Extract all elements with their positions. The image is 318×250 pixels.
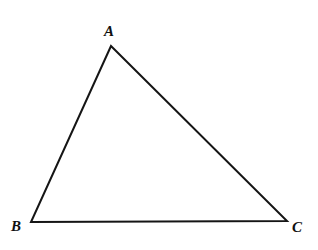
figure-background [0, 0, 318, 250]
triangle-diagram [0, 0, 318, 250]
vertex-label-b: B [11, 219, 21, 234]
geometry-figure: A B C [0, 0, 318, 250]
vertex-label-c: C [292, 220, 302, 235]
vertex-label-a: A [104, 24, 114, 39]
